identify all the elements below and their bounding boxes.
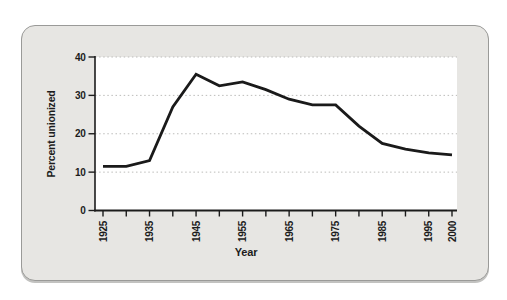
- x-tick-label: 1985: [377, 220, 388, 242]
- y-tick-label: 40: [75, 52, 86, 63]
- x-tick-label: 1935: [144, 220, 155, 242]
- x-axis-title: Year: [196, 246, 296, 258]
- x-tick-label: 1925: [98, 220, 109, 242]
- y-tick-label: 10: [75, 167, 86, 178]
- x-tick-label: 1975: [330, 220, 341, 242]
- x-tick-label: 2000: [447, 220, 458, 242]
- x-tick-label: 1945: [191, 220, 202, 242]
- y-axis-title: Percent unionized: [45, 73, 59, 195]
- plot-layer: 0102030401925193519451955196519751985199…: [75, 52, 458, 243]
- x-tick-label: 1995: [423, 220, 434, 242]
- y-tick-label: 0: [80, 205, 86, 216]
- y-tick-label: 20: [75, 128, 86, 139]
- x-tick-label: 1965: [284, 220, 295, 242]
- figure: 0102030401925193519451955196519751985199…: [0, 0, 507, 300]
- y-tick-label: 30: [75, 90, 86, 101]
- x-tick-label: 1955: [237, 220, 248, 242]
